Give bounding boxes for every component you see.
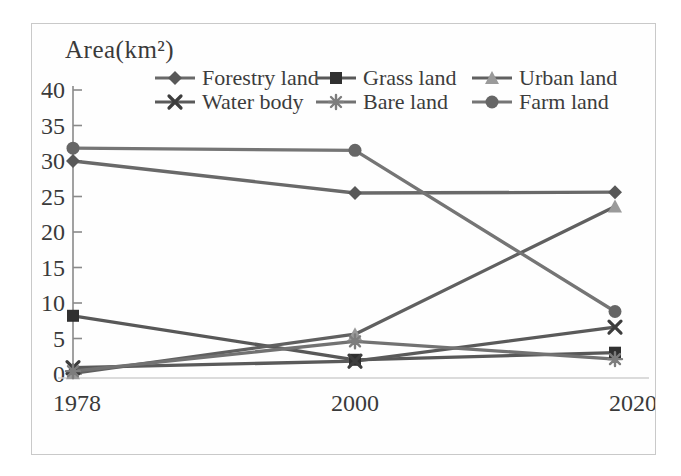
y-tick-label: 25 <box>41 184 65 210</box>
y-tick-label: 35 <box>41 113 65 139</box>
circle-marker-icon <box>67 142 80 155</box>
x-tick-label: 2020 <box>609 390 655 416</box>
square-marker-icon <box>67 310 79 322</box>
asterisk-marker-icon <box>66 364 80 378</box>
series-line-farm-land <box>73 148 615 311</box>
diamond-marker-icon <box>66 154 80 168</box>
y-tick-label: 20 <box>41 219 65 245</box>
asterisk-marker-icon <box>348 334 362 348</box>
plot-area: 0510152025303540197820002020 <box>32 24 655 454</box>
asterisk-marker-icon <box>608 352 622 366</box>
screenshot-canvas: Area(km²) Forestry landGrass landUrban l… <box>0 0 681 476</box>
x-tick-label: 2000 <box>331 390 379 416</box>
series-line-forestry-land <box>73 161 615 193</box>
chart-frame: Area(km²) Forestry landGrass landUrban l… <box>31 23 656 455</box>
series-line-urban-land <box>73 206 615 373</box>
circle-marker-icon <box>349 144 362 157</box>
x-tick-label: 1978 <box>53 390 101 416</box>
y-tick-label: 5 <box>53 326 65 352</box>
diamond-marker-icon <box>348 186 362 200</box>
diamond-marker-icon <box>608 185 622 199</box>
circle-marker-icon <box>609 305 622 318</box>
y-tick-label: 40 <box>41 77 65 103</box>
y-tick-label: 30 <box>41 148 65 174</box>
triangle-marker-icon <box>608 199 622 212</box>
y-tick-label: 15 <box>41 255 65 281</box>
y-tick-label: 10 <box>41 290 65 316</box>
y-tick-label: 0 <box>53 361 65 387</box>
